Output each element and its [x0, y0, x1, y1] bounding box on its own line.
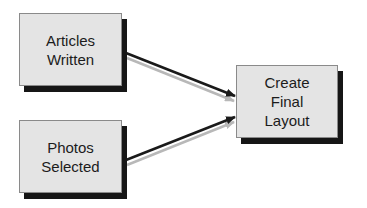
node-photos-selected: Photos Selected	[19, 120, 122, 193]
node-label: Photos Selected	[41, 138, 99, 176]
arrow-photos-to-layout	[126, 117, 235, 160]
arrow-shadow-photos-to-layout	[127, 122, 234, 165]
node-articles-written: Articles Written	[19, 13, 122, 86]
arrow-articles-to-layout	[126, 53, 235, 96]
node-create-final-layout: Create Final Layout	[236, 65, 338, 138]
node-label: Create Final Layout	[264, 73, 309, 130]
flow-diagram: Articles Written Photos Selected Create …	[0, 0, 367, 208]
node-label: Articles Written	[46, 31, 95, 69]
arrow-shadow-articles-to-layout	[127, 58, 234, 101]
